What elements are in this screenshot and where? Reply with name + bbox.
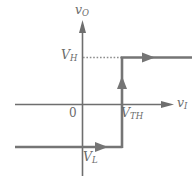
transition-direction-arrow-icon — [117, 76, 127, 89]
low-level-label-subscript: L — [92, 155, 98, 165]
threshold-label-base: V — [121, 105, 130, 120]
high-level-label-subscript: H — [70, 53, 77, 63]
high-level-tick-label: VH — [61, 49, 77, 62]
y-axis-label-subscript: O — [82, 8, 89, 18]
x-axis-label-base: v — [177, 95, 184, 110]
x-axis-label-subscript: I — [184, 101, 187, 111]
y-axis-arrowhead — [79, 20, 86, 33]
x-axis-label: vI — [177, 97, 187, 110]
low-level-label-base: V — [83, 149, 92, 164]
y-axis-label: vO — [75, 4, 89, 17]
y-axis-label-base: v — [75, 2, 82, 17]
high-level-label-base: V — [61, 47, 70, 62]
low-level-tick-label: VL — [83, 151, 98, 164]
origin-label: 0 — [69, 107, 77, 119]
transfer-characteristic-figure: vO VH 0 VTH vI VL — [0, 0, 194, 182]
threshold-label-subscript: TH — [130, 111, 143, 121]
threshold-tick-label: VTH — [121, 107, 143, 120]
high-branch-direction-arrow-icon — [142, 53, 155, 63]
x-axis-arrowhead — [161, 101, 174, 108]
